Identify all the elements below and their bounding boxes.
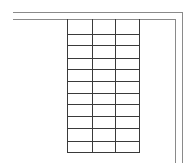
grid-row-line [67, 116, 140, 117]
grid-row-line [67, 141, 140, 142]
grid-row-line [67, 128, 140, 129]
grid-row-line [67, 104, 140, 105]
grid-row-line [67, 58, 140, 59]
grid-row-line [67, 93, 140, 94]
outer-border-right [182, 12, 183, 163]
grid-column-line [92, 19, 93, 153]
grid-row-line [67, 69, 140, 70]
inner-border-top [13, 19, 176, 20]
grid-column-line [67, 19, 68, 153]
grid-column-line [139, 19, 140, 153]
inner-border-right [175, 19, 176, 163]
grid-row-line [67, 45, 140, 46]
grid-row-line [67, 34, 140, 35]
outer-border-top [13, 12, 183, 13]
grid-row-line [67, 152, 140, 153]
grid-row-line [67, 81, 140, 82]
grid-column-line [115, 19, 116, 153]
